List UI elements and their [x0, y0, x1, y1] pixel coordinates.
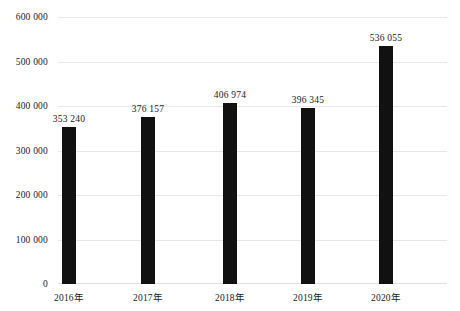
bar-2016[interactable] — [62, 127, 76, 284]
bar-value-2017: 376 157 — [132, 104, 164, 114]
x-tick-label-2019: 2019年 — [293, 290, 323, 304]
bar-value-2019: 396 345 — [292, 95, 324, 105]
y-tick-label: 300 000 — [16, 146, 48, 156]
x-tick-label-2017: 2017年 — [133, 290, 163, 304]
gridline-600000 — [58, 17, 447, 18]
x-tick-label-2016: 2016年 — [54, 290, 84, 304]
x-tick-label-2020: 2020年 — [371, 290, 401, 304]
bar-2020[interactable] — [379, 46, 393, 285]
x-axis: 2016年 2017年 2018年 2019年 2020年 — [58, 288, 447, 311]
plot-area: 353 240 376 157 406 974 396 345 536 055 — [58, 17, 447, 284]
bar-value-2020: 536 055 — [370, 33, 402, 43]
bar-2018[interactable] — [223, 103, 237, 284]
y-tick-label: 200 000 — [16, 190, 48, 200]
y-tick-label: 500 000 — [16, 57, 48, 67]
bar-chart: 600 000 500 000 400 000 300 000 200 000 … — [0, 0, 460, 311]
y-tick-label: 0 — [43, 279, 48, 289]
bar-2017[interactable] — [141, 117, 155, 284]
y-tick-label: 400 000 — [16, 101, 48, 111]
y-tick-label: 100 000 — [16, 235, 48, 245]
bar-2019[interactable] — [301, 108, 315, 284]
y-axis: 600 000 500 000 400 000 300 000 200 000 … — [0, 0, 54, 311]
x-tick-label-2018: 2018年 — [215, 290, 245, 304]
bar-value-2016: 353 240 — [53, 114, 85, 124]
bar-value-2018: 406 974 — [214, 90, 246, 100]
y-tick-label: 600 000 — [16, 12, 48, 22]
